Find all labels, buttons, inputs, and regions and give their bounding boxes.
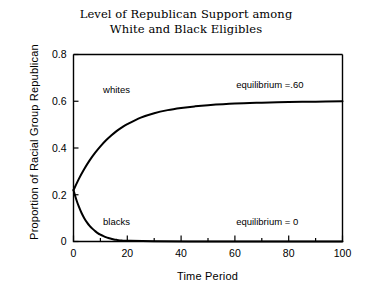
x-tick-label-4: 80 <box>283 247 295 259</box>
tick-labels-group: 00.20.40.60.8020406080100 <box>52 48 352 258</box>
x-tick-label-1: 20 <box>121 247 133 259</box>
x-tick-label-3: 60 <box>229 247 241 259</box>
x-tick-label-5: 100 <box>334 247 352 259</box>
label-whites: whites <box>102 84 130 95</box>
y-tick-label-1: 0.2 <box>52 189 67 201</box>
x-tick-label-2: 40 <box>175 247 187 259</box>
y-tick-label-2: 0.4 <box>52 142 67 154</box>
chart-figure: Level of Republican Support among White … <box>0 0 372 301</box>
label-blacks: blacks <box>103 216 130 227</box>
equilibrium-black: equilibrium = 0 <box>236 216 298 227</box>
y-tick-label-3: 0.6 <box>52 95 67 107</box>
equilibrium-white: equilibrium =.60 <box>236 79 303 90</box>
curve-whites <box>74 101 343 190</box>
plot-area: 00.20.40.60.8020406080100 equilibrium =.… <box>0 0 372 301</box>
x-tick-label-0: 0 <box>71 247 77 259</box>
y-tick-label-4: 0.8 <box>52 48 67 60</box>
y-tick-label-0: 0 <box>61 235 67 247</box>
